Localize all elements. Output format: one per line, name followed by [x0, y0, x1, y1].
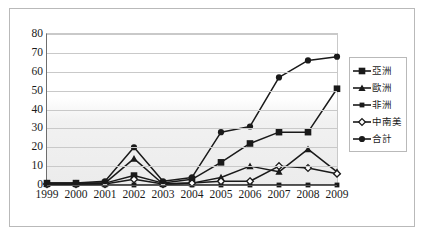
gridline-70 — [47, 53, 337, 54]
chart-figure: 0102030405060708019992000200120022003200… — [0, 0, 426, 236]
gridline-20 — [47, 147, 337, 148]
legend-item-label: 合計 — [372, 134, 392, 144]
chart-legend: 亞洲歐洲非洲中南美合計 — [349, 57, 407, 152]
legend-marker-circle-icon — [352, 132, 372, 146]
gridline-50 — [47, 91, 337, 92]
data-point — [247, 140, 254, 147]
x-axis-tick-label: 2000 — [65, 189, 88, 201]
legend-item[interactable]: 中南美 — [352, 113, 403, 130]
data-point — [305, 129, 312, 136]
data-point — [102, 178, 108, 184]
data-point — [130, 155, 137, 162]
legend-marker-square-icon — [352, 64, 372, 78]
y-axis-tick-label: 60 — [32, 66, 44, 78]
x-axis-tick-label: 2003 — [152, 189, 175, 201]
series-line — [47, 57, 337, 183]
y-axis-tick-label: 10 — [32, 160, 44, 172]
x-axis-tick-label: 2006 — [239, 189, 262, 201]
data-point — [305, 57, 311, 63]
gridline-0 — [47, 185, 337, 186]
legend-marker-triangle-icon — [352, 81, 372, 95]
legend-item-label: 歐洲 — [372, 83, 392, 93]
legend-item-label: 中南美 — [372, 117, 402, 127]
series-line — [47, 89, 337, 183]
legend-item[interactable]: 亞洲 — [352, 62, 403, 79]
data-point — [189, 174, 195, 180]
x-axis-tick-label: 2007 — [268, 189, 291, 201]
data-point — [276, 129, 283, 136]
plot-wrapper: 0102030405060708019992000200120022003200… — [30, 24, 340, 200]
data-point — [218, 159, 225, 166]
data-point — [334, 170, 341, 177]
x-axis-tick-label: 2005 — [210, 189, 233, 201]
gridline-10 — [47, 166, 337, 167]
x-axis-tick-label: 2002 — [123, 189, 146, 201]
data-point — [334, 54, 340, 60]
legend-item[interactable]: 非洲 — [352, 96, 403, 113]
gridline-40 — [47, 110, 337, 111]
legend-marker-diamond-icon — [352, 115, 372, 129]
legend-item[interactable]: 歐洲 — [352, 79, 403, 96]
gridline-60 — [47, 72, 337, 73]
y-axis-tick-label: 40 — [32, 104, 44, 116]
data-point — [218, 129, 224, 135]
legend-item-label: 亞洲 — [372, 66, 392, 76]
y-axis-tick-label: 80 — [32, 28, 44, 40]
legend-item-label: 非洲 — [372, 100, 392, 110]
y-axis-tick-label: 30 — [32, 123, 44, 135]
y-axis-tick-label: 70 — [32, 47, 44, 59]
data-point — [276, 74, 282, 80]
gridline-80 — [47, 34, 337, 35]
x-axis-tick-label: 2001 — [94, 189, 117, 201]
legend-marker-square-small-icon — [352, 98, 372, 112]
plot-area: 0102030405060708019992000200120022003200… — [46, 33, 338, 185]
series-0 — [44, 85, 341, 186]
x-axis-tick-label: 2009 — [326, 189, 349, 201]
gridline-30 — [47, 128, 337, 129]
legend-item[interactable]: 合計 — [352, 130, 403, 147]
data-point — [160, 178, 166, 184]
x-axis-tick-label: 2008 — [297, 189, 320, 201]
y-axis-tick-label: 50 — [32, 85, 44, 97]
x-axis-tick-label: 2004 — [181, 189, 204, 201]
y-axis-tick-label: 20 — [32, 142, 44, 154]
x-axis-tick-label: 1999 — [36, 189, 59, 201]
